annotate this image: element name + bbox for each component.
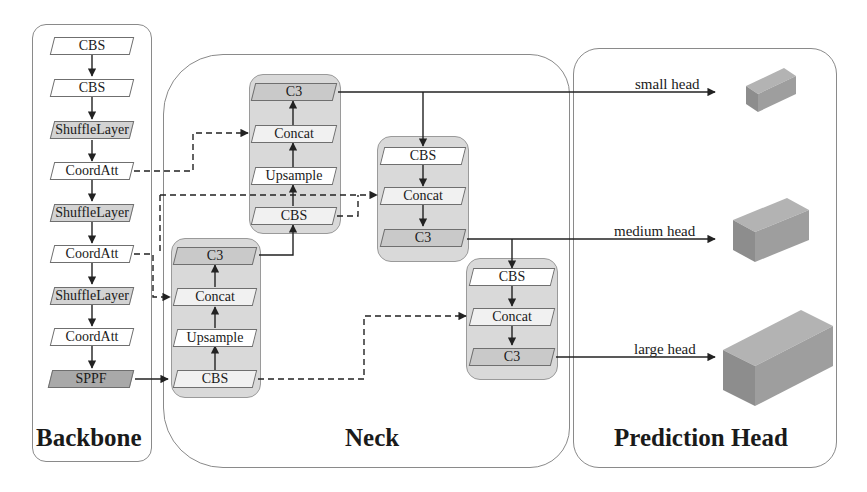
neck-title: Neck: [345, 424, 399, 452]
neck-top-c3: C3: [253, 83, 335, 101]
backbone-sppf: SPPF: [50, 370, 132, 388]
large-head-label: large head: [634, 341, 696, 358]
backbone-cbs-1: CBS: [52, 37, 132, 55]
neck-low-cbs: CBS: [471, 268, 553, 286]
backbone-cbs-2: CBS: [52, 79, 132, 97]
backbone-title: Backbone: [36, 424, 142, 452]
neck-low-c3: C3: [471, 348, 553, 366]
small-head-label: small head: [635, 76, 700, 93]
medium-head-feature-cube-icon: [731, 196, 811, 264]
backbone-coordatt-1: CoordAtt: [52, 162, 132, 180]
backbone-shufflelayer-1: ShuffleLayer: [52, 121, 132, 139]
neck-mid-concat: Concat: [382, 187, 464, 205]
prediction-head-title: Prediction Head: [614, 424, 788, 452]
neck-bottom-concat: Concat: [175, 288, 255, 306]
neck-top-upsample: Upsample: [253, 167, 335, 185]
neck-bottom-c3: C3: [175, 247, 255, 265]
neck-top-concat: Concat: [253, 125, 335, 143]
neck-bottom-cbs: CBS: [175, 370, 255, 388]
backbone-coordatt-3: CoordAtt: [52, 328, 132, 346]
backbone-shufflelayer-3: ShuffleLayer: [52, 287, 132, 305]
neck-bottom-upsample: Upsample: [175, 329, 255, 347]
small-head-feature-cube-icon: [744, 66, 800, 116]
neck-mid-c3: C3: [382, 229, 464, 247]
neck-low-concat: Concat: [471, 308, 553, 326]
neck-mid-cbs: CBS: [382, 147, 464, 165]
neck-top-cbs: CBS: [253, 207, 335, 225]
backbone-coordatt-2: CoordAtt: [52, 245, 132, 263]
backbone-shufflelayer-2: ShuffleLayer: [52, 204, 132, 222]
medium-head-label: medium head: [614, 223, 695, 240]
large-head-feature-cube-icon: [721, 308, 835, 408]
